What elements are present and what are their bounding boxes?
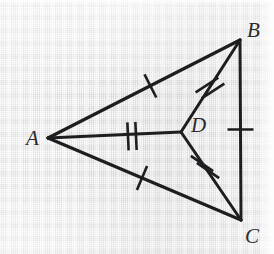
tick-mark-AD-2 bbox=[135, 122, 136, 150]
segment-AB bbox=[48, 40, 240, 138]
segment-group bbox=[48, 40, 241, 220]
vertex-label-c: C bbox=[245, 226, 259, 247]
vertex-label-a: A bbox=[26, 128, 39, 149]
tick-mark-DC-2 bbox=[197, 163, 219, 178]
vertex-label-d: D bbox=[191, 115, 206, 136]
diagram-canvas bbox=[0, 0, 274, 254]
tick-mark-AD-1 bbox=[127, 122, 128, 150]
geometry-figure: A B C D bbox=[0, 0, 274, 254]
tick-mark-DC-1 bbox=[191, 156, 213, 171]
vertex-label-b: B bbox=[247, 20, 260, 41]
segment-AD bbox=[48, 132, 181, 138]
tick-mark-AB-1 bbox=[144, 74, 156, 97]
